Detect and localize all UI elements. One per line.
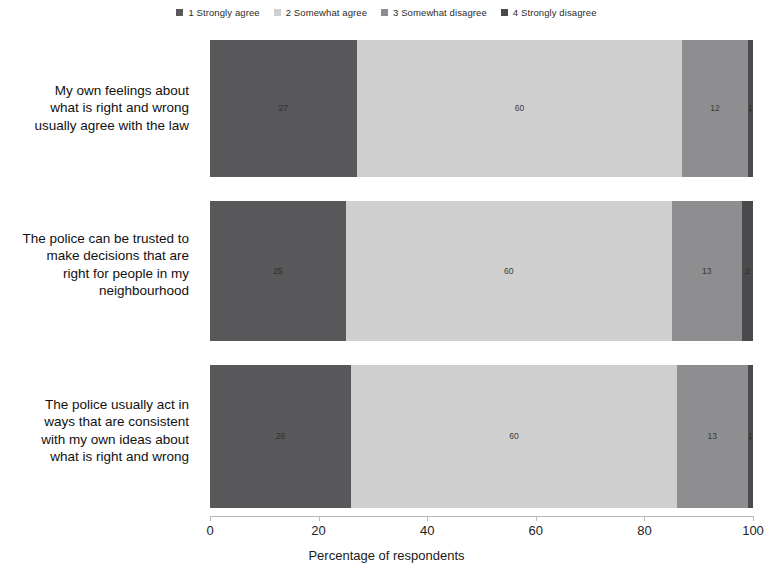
x-axis-tick	[753, 516, 754, 521]
stacked-bar-chart: 1 Strongly agree 2 Somewhat agree 3 Some…	[0, 0, 773, 573]
bar-row: 2660131	[210, 365, 753, 508]
legend-swatch-somewhat-agree	[274, 9, 281, 16]
chart-legend: 1 Strongly agree 2 Somewhat agree 3 Some…	[0, 7, 773, 18]
bar-segment: 60	[357, 40, 683, 177]
x-axis-tick	[319, 516, 320, 521]
plot-area: 2760121 2560132 2660131	[210, 38, 753, 516]
bar-segment-value: 13	[708, 432, 717, 441]
category-label-line: make decisions that are	[0, 247, 189, 264]
bar-segment-value: 13	[702, 267, 711, 276]
x-axis-tick	[536, 516, 537, 521]
category-label-line: My own feelings about	[0, 82, 189, 99]
bar-segment-value: 60	[515, 104, 524, 113]
bar-segment: 25	[210, 201, 346, 341]
bar-segment: 60	[351, 365, 677, 508]
legend-swatch-strongly-agree	[176, 9, 183, 16]
category-label-line: ways that are consistent	[0, 413, 189, 430]
x-axis-tick-label: 100	[742, 523, 764, 538]
legend-label-somewhat-agree: 2 Somewhat agree	[286, 7, 367, 18]
bar-segment-value: 2	[745, 267, 750, 276]
legend-swatch-somewhat-disagree	[381, 9, 388, 16]
bar-segment-value: 26	[276, 432, 285, 441]
bar-segment-value: 27	[279, 104, 288, 113]
x-axis-tick-label: 60	[529, 523, 543, 538]
bar-segment-value: 25	[273, 267, 282, 276]
legend-label-somewhat-disagree: 3 Somewhat disagree	[393, 7, 487, 18]
bar-segment: 13	[677, 365, 748, 508]
bar-segment-value: 60	[509, 432, 518, 441]
x-axis-title: Percentage of respondents	[0, 548, 773, 563]
x-axis-line	[210, 516, 754, 517]
bar-segment: 13	[672, 201, 743, 341]
category-label-line: neighbourhood	[0, 282, 189, 299]
x-axis-tick	[644, 516, 645, 521]
x-axis-tick-label: 80	[637, 523, 651, 538]
category-label-2: The police usually act inways that are c…	[0, 396, 189, 465]
bar-segment: 12	[682, 40, 747, 177]
category-label-1: The police can be trusted tomake decisio…	[0, 230, 189, 299]
legend-item-1: 1 Strongly agree	[176, 7, 259, 18]
category-label-line: The police can be trusted to	[0, 230, 189, 247]
x-axis-tick	[210, 516, 211, 521]
legend-label-strongly-agree: 1 Strongly agree	[188, 7, 259, 18]
legend-item-2: 2 Somewhat agree	[274, 7, 367, 18]
legend-swatch-strongly-disagree	[501, 9, 508, 16]
bar-segment: 26	[210, 365, 351, 508]
legend-item-3: 3 Somewhat disagree	[381, 7, 487, 18]
x-axis-tick-label: 40	[420, 523, 434, 538]
legend-label-strongly-disagree: 4 Strongly disagree	[513, 7, 597, 18]
bar-segment-value: 60	[504, 267, 513, 276]
x-axis-tick-label: 20	[311, 523, 325, 538]
x-axis-tick-label: 0	[206, 523, 213, 538]
bar-segment-value: 1	[748, 432, 753, 441]
category-label-line: what is right and wrong	[0, 99, 189, 116]
x-axis-tick	[427, 516, 428, 521]
bar-segment-value: 12	[710, 104, 719, 113]
category-label-0: My own feelings aboutwhat is right and w…	[0, 82, 189, 134]
bar-segment: 60	[346, 201, 672, 341]
category-label-line: usually agree with the law	[0, 117, 189, 134]
category-label-line: The police usually act in	[0, 396, 189, 413]
bar-segment: 2	[742, 201, 753, 341]
bar-segment: 27	[210, 40, 357, 177]
bar-segment: 1	[748, 40, 753, 177]
bar-segment: 1	[748, 365, 753, 508]
legend-item-4: 4 Strongly disagree	[501, 7, 597, 18]
category-label-line: with my own ideas about	[0, 431, 189, 448]
bar-row: 2760121	[210, 40, 753, 177]
bar-segment-value: 1	[748, 104, 753, 113]
category-label-line: what is right and wrong	[0, 448, 189, 465]
bar-row: 2560132	[210, 201, 753, 341]
category-label-line: right for people in my	[0, 265, 189, 282]
